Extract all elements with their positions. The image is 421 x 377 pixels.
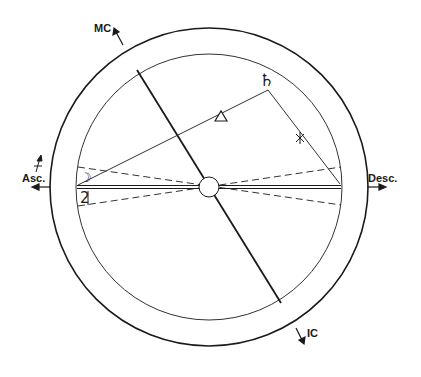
- desc-label: Desc.: [368, 172, 397, 184]
- sextile-icon: [296, 132, 304, 144]
- desc-arrow-icon: [367, 184, 386, 190]
- asc-arrow-icon: [32, 184, 51, 190]
- moon-icon: ☽: [80, 170, 92, 185]
- earth-center: [199, 177, 219, 197]
- asc-label: Asc.: [22, 172, 45, 184]
- saturn-icon: ♄: [259, 70, 274, 90]
- mc-arrow-icon: [113, 28, 123, 45]
- ic-label: IC: [307, 327, 318, 339]
- chart-wheel: ♄ ☽ 2 MC IC Asc. Desc.: [0, 0, 421, 377]
- rising-arrow-icon: [34, 155, 42, 172]
- mc-label: MC: [94, 22, 111, 34]
- ic-arrow-icon: [296, 328, 305, 344]
